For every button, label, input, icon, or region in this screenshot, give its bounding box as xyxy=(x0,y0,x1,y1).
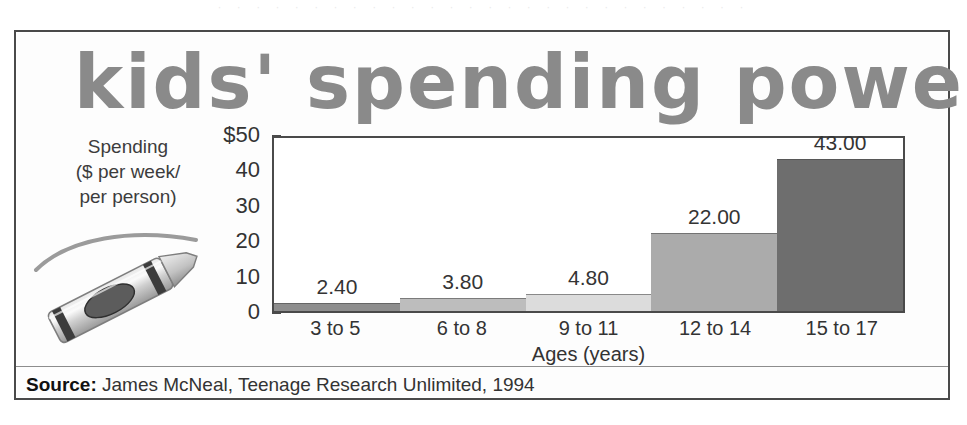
bar-slot: 22.00 xyxy=(651,138,777,311)
bar-value-label: 43.00 xyxy=(777,131,903,155)
x-axis-tick-label: 9 to 11 xyxy=(525,316,652,340)
bar[interactable] xyxy=(400,298,526,311)
y-axis-tick-label: 20 xyxy=(236,228,260,254)
y-axis-caption-line-1: Spending xyxy=(44,134,212,159)
y-axis-caption: Spending ($ per week/ per person) xyxy=(44,134,212,209)
bar-value-label: 3.80 xyxy=(400,270,526,294)
y-axis: $50403020100 xyxy=(210,136,272,313)
chart-figure: · · · · · · · · · · · · · · · · · · · · … xyxy=(0,0,967,425)
bar-slot: 2.40 xyxy=(274,138,400,311)
source-label: Source: xyxy=(26,374,97,395)
y-axis-tick-label: 0 xyxy=(248,299,260,325)
bar[interactable] xyxy=(651,233,777,311)
x-axis-tick-labels: 3 to 56 to 89 to 1112 to 1415 to 17 xyxy=(272,316,905,340)
bar-value-label: 2.40 xyxy=(274,275,400,299)
x-axis-tick-label: 15 to 17 xyxy=(778,316,905,340)
bars-container: 2.403.804.8022.0043.00 xyxy=(274,138,903,311)
bar-slot: 43.00 xyxy=(777,138,903,311)
bar[interactable] xyxy=(526,294,652,311)
bar-value-label: 4.80 xyxy=(526,266,652,290)
x-axis-title: Ages (years) xyxy=(272,342,905,366)
y-axis-caption-line-2: ($ per week/ xyxy=(44,159,212,184)
source-divider xyxy=(16,366,948,367)
plot-area: 2.403.804.8022.0043.00 xyxy=(272,136,905,313)
scan-artifact: · · · · · · · · · · · · · · · · · · · · … xyxy=(0,0,967,14)
x-axis-tick-label: 12 to 14 xyxy=(652,316,779,340)
bar-slot: 3.80 xyxy=(400,138,526,311)
bar[interactable] xyxy=(274,303,400,311)
y-axis-tick-label: 10 xyxy=(236,264,260,290)
plot-region: $50403020100 2.403.804.8022.0043.00 xyxy=(272,136,905,313)
y-axis-tick-label: 30 xyxy=(236,193,260,219)
source-note: Source: James McNeal, Teenage Research U… xyxy=(26,372,926,398)
y-axis-tick-label: 40 xyxy=(236,157,260,183)
y-axis-caption-line-3: per person) xyxy=(44,184,212,209)
bar[interactable] xyxy=(777,159,903,311)
chart-title: kids' spending power xyxy=(74,34,914,130)
x-axis-tick-label: 3 to 5 xyxy=(272,316,399,340)
source-text: James McNeal, Teenage Research Unlimited… xyxy=(102,374,535,395)
bar-value-label: 22.00 xyxy=(651,205,777,229)
x-axis-tick-label: 6 to 8 xyxy=(399,316,526,340)
crayon-icon xyxy=(28,222,218,344)
bar-slot: 4.80 xyxy=(526,138,652,311)
